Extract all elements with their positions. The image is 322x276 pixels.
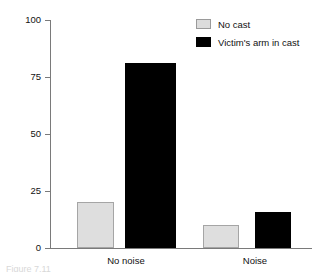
- y-axis-title: Percentage of passers-by who helped: [2, 0, 18, 16]
- y-axis-line: [50, 20, 51, 249]
- y-tick-50: 50: [45, 134, 50, 135]
- y-tick-75: 75: [45, 77, 50, 78]
- y-tick-label-100: 100: [25, 13, 41, 26]
- bar-noise-no-cast: [203, 225, 239, 248]
- y-tick-25: 25: [45, 191, 50, 192]
- bar-no-noise-cast: [125, 63, 176, 248]
- y-tick-100: 100: [45, 20, 50, 21]
- y-axis-title-text: Percentage of passers-by who helped: [2, 0, 18, 16]
- figure-caption: Figure 7.11: [6, 264, 51, 272]
- y-tick-label-75: 75: [30, 70, 41, 83]
- plot-area: 100 75 50 25 0 No noise Noise: [50, 20, 312, 248]
- x-axis-label-no-noise: No noise: [107, 254, 145, 267]
- x-axis-label-noise: Noise: [243, 254, 267, 267]
- figure-container: No cast Victim's arm in cast Percentage …: [0, 0, 322, 276]
- y-tick-0: 0: [45, 248, 50, 249]
- y-tick-label-50: 50: [30, 127, 41, 140]
- bar-noise-cast: [255, 212, 291, 248]
- y-tick-label-25: 25: [30, 184, 41, 197]
- y-tick-label-0: 0: [36, 241, 41, 254]
- x-axis-line: [50, 248, 312, 249]
- bar-no-noise-no-cast: [77, 202, 114, 248]
